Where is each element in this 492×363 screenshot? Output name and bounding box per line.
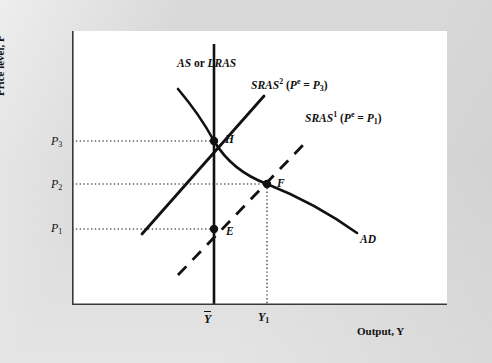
- sras2-target: P: [313, 79, 320, 91]
- point-e-marker: [210, 225, 218, 233]
- sras2-equals: =: [300, 79, 312, 91]
- lras-label-alt: LRAS: [207, 57, 236, 69]
- y-tick-label-p3: P3: [51, 135, 62, 147]
- curve-sras1: [178, 143, 305, 275]
- point-f-marker: [263, 180, 271, 188]
- x-tick-y1-sub: 1: [265, 316, 269, 325]
- y-tick-label-p2: P2: [51, 178, 62, 190]
- sras1-pe: P: [344, 112, 351, 124]
- sras1-target: P: [367, 112, 374, 124]
- sras2-pe: P: [290, 79, 297, 91]
- lras-label-conj: or: [191, 57, 207, 69]
- sras1-equals: =: [354, 112, 366, 124]
- y-tick-p1-sub: 1: [58, 227, 62, 236]
- curve-label-sras1: SRAS1 (Pe = P1): [305, 113, 382, 125]
- figure-container: Price level, P Output, Y P3 P2 P1 Y Y1 A…: [0, 0, 492, 363]
- x-axis-title: Output, Y: [357, 326, 404, 337]
- curve-label-ad: AD: [360, 234, 376, 246]
- y-tick-label-p1: P1: [51, 222, 62, 234]
- plot-area: [72, 31, 447, 305]
- diagram-svg: [72, 31, 447, 305]
- sras1-paren-close: ): [378, 112, 382, 124]
- y-tick-p2-sub: 2: [58, 183, 62, 192]
- curve-sras2: [142, 96, 264, 234]
- x-tick-ybar-base: Y: [204, 311, 211, 325]
- point-h-marker: [210, 137, 218, 145]
- curve-label-sras2: SRAS2 (Pe = P3): [251, 80, 328, 92]
- sras2-target-sub: 3: [320, 84, 324, 93]
- y-axis-title: Price level, P: [0, 35, 6, 96]
- y-tick-p3-sub: 3: [58, 140, 62, 149]
- sras1-paren-open: (: [337, 112, 344, 124]
- point-label-f: F: [277, 178, 285, 190]
- sras2-paren-open: (: [283, 79, 290, 91]
- lras-label-main: AS: [177, 57, 191, 69]
- point-label-h: H: [225, 134, 234, 146]
- curve-label-lras: AS or LRAS: [177, 58, 236, 70]
- x-tick-label-ybar: Y: [204, 311, 211, 325]
- sras1-name: SRAS: [305, 112, 333, 124]
- sras2-name: SRAS: [251, 79, 279, 91]
- point-label-e: E: [226, 226, 234, 238]
- sras1-target-sub: 1: [374, 117, 378, 126]
- sras2-paren-close: ): [324, 79, 328, 91]
- x-tick-label-y1: Y1: [258, 311, 269, 323]
